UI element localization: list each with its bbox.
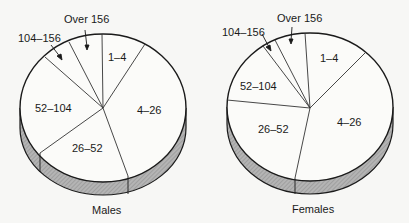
females-title: Females (292, 203, 335, 215)
females-label-over-156: Over 156 (277, 12, 322, 24)
pie-charts-figure: Over 156 104–156 1–4 52–104 4–26 26–52 M… (0, 0, 409, 223)
females-pie: Over 156 104–156 1–4 52–104 4–26 26–52 F… (222, 12, 393, 215)
males-label-1-4: 1–4 (108, 51, 126, 63)
males-title: Males (92, 204, 122, 216)
males-label-26-52: 26–52 (72, 142, 103, 154)
females-label-52-104: 52–104 (240, 80, 277, 92)
males-pie: Over 156 104–156 1–4 52–104 4–26 26–52 M… (18, 13, 186, 216)
males-label-52-104: 52–104 (35, 102, 72, 114)
females-label-104-156: 104–156 (222, 26, 265, 38)
males-label-over-156: Over 156 (64, 13, 109, 25)
females-label-1-4: 1–4 (320, 52, 338, 64)
males-label-104-156: 104–156 (18, 32, 61, 44)
females-label-4-26: 4–26 (337, 116, 361, 128)
females-label-26-52: 26–52 (258, 123, 289, 135)
males-label-4-26: 4–26 (137, 104, 161, 116)
